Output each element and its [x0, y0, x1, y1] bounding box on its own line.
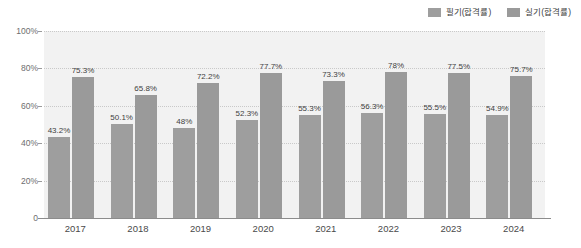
- bar-written[interactable]: 48%: [173, 128, 195, 218]
- bar-practical[interactable]: 75.7%: [510, 76, 532, 218]
- legend-label-written: 필기(합격률): [446, 8, 492, 17]
- legend-item-practical[interactable]: 실기(합격률): [507, 8, 571, 17]
- y-axis-tick: [38, 106, 42, 107]
- bar-practical[interactable]: 72.2%: [197, 83, 219, 218]
- bar-practical[interactable]: 73.3%: [323, 81, 345, 218]
- bar-value-label: 75.3%: [72, 67, 95, 75]
- legend-swatch-written-icon: [428, 8, 441, 17]
- bar-written[interactable]: 55.5%: [424, 114, 446, 218]
- bar-group: 55.3%73.3%: [295, 31, 358, 218]
- bar-group: 55.5%77.5%: [420, 31, 483, 218]
- bar-value-label: 54.9%: [486, 105, 509, 113]
- x-axis-tick-label: 2020: [233, 224, 293, 234]
- legend-swatch-practical-icon: [507, 8, 520, 17]
- bar-written[interactable]: 52.3%: [236, 120, 258, 218]
- bar-value-label: 65.8%: [134, 85, 157, 93]
- bar-group: 43.2%75.3%: [44, 31, 107, 218]
- y-axis-tick-label: 0: [4, 214, 38, 223]
- y-axis-tick: [38, 181, 42, 182]
- x-axis-tick-label: 2022: [358, 224, 418, 234]
- chart-legend: 필기(합격률) 실기(합격률): [428, 4, 571, 20]
- bar-value-label: 77.5%: [447, 63, 470, 71]
- x-axis-tick-label: 2021: [296, 224, 356, 234]
- y-axis-tick-label: 80%: [4, 64, 38, 73]
- bar-value-label: 75.7%: [510, 66, 533, 74]
- x-axis-tick-label: 2018: [108, 224, 168, 234]
- bar-value-label: 78%: [388, 62, 404, 70]
- bar-practical[interactable]: 65.8%: [135, 95, 157, 218]
- bar-value-label: 50.1%: [110, 114, 133, 122]
- y-axis-tick-label: 100%: [4, 27, 38, 36]
- x-axis-line: [38, 218, 551, 219]
- bar-written[interactable]: 50.1%: [111, 124, 133, 218]
- bar-value-label: 77.7%: [260, 63, 283, 71]
- x-axis-tick-label: 2023: [421, 224, 481, 234]
- legend-label-practical: 실기(합격률): [525, 8, 571, 17]
- bars-layer: 43.2%75.3%50.1%65.8%48%72.2%52.3%77.7%55…: [44, 31, 545, 218]
- y-axis: 020%40%60%80%100%: [0, 0, 38, 248]
- x-axis-tick-label: 2024: [484, 224, 544, 234]
- bar-value-label: 52.3%: [236, 110, 259, 118]
- bar-chart: 필기(합격률) 실기(합격률) 020%40%60%80%100% 43.2%7…: [0, 0, 581, 248]
- y-axis-tick: [38, 143, 42, 144]
- y-axis-tick-label: 60%: [4, 102, 38, 111]
- bar-group: 48%72.2%: [169, 31, 232, 218]
- y-axis-tick: [38, 31, 42, 32]
- bar-value-label: 48%: [176, 118, 192, 126]
- bar-group: 56.3%78%: [357, 31, 420, 218]
- bar-value-label: 72.2%: [197, 73, 220, 81]
- bar-value-label: 73.3%: [322, 71, 345, 79]
- y-axis-tick-label: 20%: [4, 176, 38, 185]
- x-axis-tick-label: 2019: [171, 224, 231, 234]
- bar-group: 54.9%75.7%: [482, 31, 545, 218]
- bar-practical[interactable]: 77.5%: [448, 73, 470, 218]
- y-axis-tick-label: 40%: [4, 139, 38, 148]
- bar-group: 52.3%77.7%: [232, 31, 295, 218]
- x-axis-tick-label: 2017: [45, 224, 105, 234]
- bar-practical[interactable]: 75.3%: [72, 77, 94, 218]
- bar-written[interactable]: 56.3%: [361, 113, 383, 218]
- y-axis-tick: [38, 68, 42, 69]
- bar-value-label: 55.5%: [423, 104, 446, 112]
- bar-value-label: 56.3%: [361, 103, 384, 111]
- legend-item-written[interactable]: 필기(합격률): [428, 8, 492, 17]
- bar-group: 50.1%65.8%: [107, 31, 170, 218]
- x-axis: 20172018201920202021202220232024: [44, 224, 545, 240]
- bar-written[interactable]: 54.9%: [486, 115, 508, 218]
- bar-value-label: 43.2%: [48, 127, 71, 135]
- bar-value-label: 55.3%: [298, 105, 321, 113]
- bar-practical[interactable]: 78%: [385, 72, 407, 218]
- bar-written[interactable]: 43.2%: [48, 137, 70, 218]
- bar-practical[interactable]: 77.7%: [260, 73, 282, 218]
- bar-written[interactable]: 55.3%: [299, 115, 321, 218]
